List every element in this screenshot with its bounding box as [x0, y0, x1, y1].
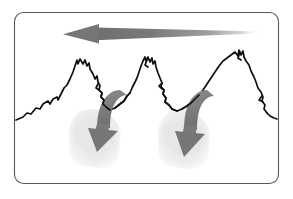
figure-canvas: Mountain range with prevailing wind and … — [0, 0, 293, 199]
mountain-diagram-svg — [0, 0, 293, 199]
